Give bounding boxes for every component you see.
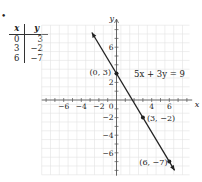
point-label: (3, −2) bbox=[147, 114, 175, 123]
y-tick-label: −2 bbox=[102, 113, 113, 122]
y-tick-label: −4 bbox=[102, 131, 113, 140]
x-tick-label: −2 bbox=[93, 102, 104, 111]
point-label: (0, 3) bbox=[90, 68, 112, 77]
origin-label: 0 bbox=[109, 102, 114, 111]
x-axis-label: x bbox=[195, 100, 200, 109]
data-point bbox=[167, 160, 171, 164]
equation-label: 5x + 3y = 9 bbox=[134, 69, 185, 79]
point-label: (6, −7) bbox=[139, 158, 167, 167]
x-tick-label: −6 bbox=[58, 102, 69, 111]
x-tick-label: 4 bbox=[149, 102, 154, 111]
x-tick-label: 6 bbox=[167, 102, 172, 111]
y-axis-label: y bbox=[109, 14, 115, 23]
y-tick-label: −6 bbox=[102, 149, 113, 158]
coordinate-graph: −6−4−24662−2−4−60xy (0, 3)(3, −2)(6, −7)… bbox=[0, 0, 202, 182]
y-tick-label: 6 bbox=[109, 43, 114, 52]
x-tick-label: −4 bbox=[76, 102, 87, 111]
y-tick-label: 2 bbox=[109, 78, 114, 87]
data-point bbox=[141, 116, 145, 120]
data-point bbox=[115, 72, 119, 76]
